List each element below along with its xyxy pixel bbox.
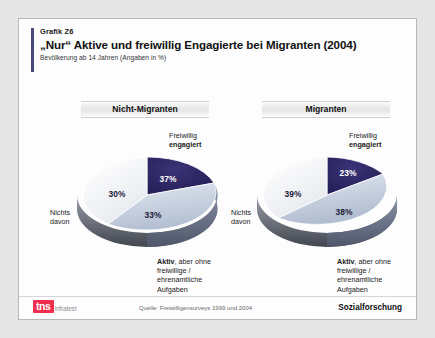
callout-aktiv-right-line4: Aufgaben	[337, 285, 368, 294]
pie-right-value-nichts: 39%	[285, 189, 302, 199]
pie-right-value-engagiert: 23%	[340, 168, 357, 178]
header-accent-bar	[31, 28, 34, 72]
chart-kicker: Grafik Z6	[40, 27, 403, 36]
callout-engagiert-right-line1: Freiwillig	[349, 131, 377, 140]
callout-aktiv-right-line2: freiwillige /	[337, 266, 371, 275]
source-note: Quelle: Freiwilligensurveys 1999 und 200…	[139, 305, 252, 311]
callout-aktiv-left-rest: , aber ohne	[175, 257, 211, 266]
slide-card: Grafik Z6 „Nur“ Aktive und freiwillig En…	[18, 18, 417, 320]
callout-engagiert-right-line2: engagiert	[349, 140, 381, 149]
callout-nichts-left-line1: Nichts	[50, 208, 70, 217]
panel-title-migranten: Migranten	[262, 101, 390, 118]
page-title: „Nur“ Aktive und freiwillig Engagierte b…	[40, 38, 403, 51]
callout-engagiert-left-line1: Freiwillig	[169, 131, 197, 140]
callout-nichts-right-line2: davon	[231, 217, 251, 226]
infratest-logo-word: infratest	[55, 305, 77, 313]
tns-infratest-logo: tns infratest	[33, 300, 76, 313]
callout-aktiv-left-line4: Aufgaben	[157, 285, 188, 294]
callout-aktiv-left: Aktiv, aber ohne freiwillige / ehrenamtl…	[157, 257, 243, 294]
header-block: Grafik Z6 „Nur“ Aktive und freiwillig En…	[31, 27, 403, 61]
callout-engagiert-right: Freiwillig engagiert	[349, 131, 413, 149]
callout-nichts-right-line1: Nichts	[231, 208, 251, 217]
callout-engagiert-left-line2: engagiert	[169, 140, 201, 149]
department-label: Sozialforschung	[338, 303, 402, 312]
tns-logo-mark: tns	[33, 300, 54, 313]
pie-left-value-nichts: 30%	[109, 189, 126, 199]
callout-aktiv-left-line2: freiwillige /	[157, 266, 191, 275]
callout-aktiv-left-line3: ehrenamtliche	[157, 275, 202, 284]
callout-nichts-davon-left: Nichts davon	[50, 208, 96, 226]
slide-background: Grafik Z6 „Nur“ Aktive und freiwillig En…	[0, 0, 435, 338]
callout-aktiv-right-bold: Aktiv	[337, 257, 355, 266]
callout-aktiv-right: Aktiv, aber ohne freiwillige / ehrenamtl…	[337, 257, 423, 294]
pie-right-value-aktiv: 38%	[336, 207, 353, 217]
chart-subtitle: Bevölkerung ab 14 Jahren (Angaben in %)	[40, 54, 403, 61]
callout-nichts-left-line2: davon	[50, 217, 70, 226]
callout-nichts-davon-right: Nichts davon	[231, 208, 277, 226]
callout-aktiv-left-bold: Aktiv	[157, 257, 175, 266]
callout-aktiv-right-rest: , aber ohne	[355, 257, 391, 266]
panel-title-nicht-migranten: Nicht-Migranten	[81, 101, 209, 118]
pie-left-value-aktiv: 33%	[145, 210, 162, 220]
footer-divider	[19, 296, 416, 297]
callout-engagiert-left: Freiwillig engagiert	[169, 131, 233, 149]
pie-left-value-engagiert: 37%	[160, 174, 177, 184]
callout-aktiv-right-line3: ehrenamtliche	[337, 275, 382, 284]
